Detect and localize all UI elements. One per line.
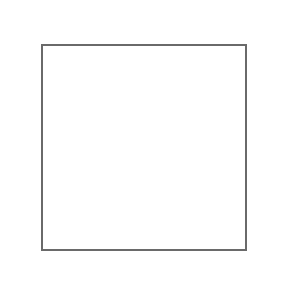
game-board bbox=[41, 44, 247, 251]
